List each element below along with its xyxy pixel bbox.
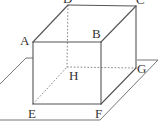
plane-back-left-edge <box>0 58 33 84</box>
ground-plane <box>0 58 158 120</box>
label-H: H <box>69 68 78 83</box>
visible-edges <box>33 5 136 104</box>
edge-BC <box>101 6 136 42</box>
label-A: A <box>20 33 30 48</box>
diagram-canvas: A B C D E F G H <box>0 0 161 134</box>
edge-DH <box>67 5 68 67</box>
cuboid-diagram: A B C D E F G H <box>0 0 161 134</box>
hidden-edges <box>33 5 136 104</box>
edge-FG <box>101 68 136 104</box>
label-G: G <box>137 61 146 76</box>
edge-DA <box>33 5 68 42</box>
label-E: E <box>28 106 36 121</box>
edge-CD <box>68 5 136 6</box>
label-B: B <box>92 26 101 41</box>
edge-EH <box>33 67 67 104</box>
vertex-labels: A B C D E F G H <box>20 0 146 121</box>
label-C: C <box>136 0 145 7</box>
label-D: D <box>63 0 72 6</box>
label-F: F <box>95 106 102 121</box>
